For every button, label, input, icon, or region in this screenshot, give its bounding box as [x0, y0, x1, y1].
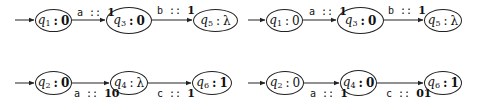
state-name: q2	[38, 76, 51, 90]
separator: :	[285, 15, 289, 27]
separator: :	[360, 15, 364, 27]
state-name: q5	[200, 14, 213, 28]
state-output: 0	[136, 15, 144, 27]
state-name: q2	[270, 76, 283, 90]
state-output: 0	[292, 15, 300, 27]
state-name: q1	[38, 14, 51, 28]
separator: :	[444, 15, 448, 27]
state-output: 0	[61, 77, 69, 89]
edge-label: a :: 1	[310, 88, 348, 99]
state-node: q2:0	[266, 71, 304, 95]
state-node: q5:λ	[424, 9, 462, 32]
state-output: λ	[451, 15, 459, 27]
state-output: 0	[293, 77, 301, 89]
state-name: q5	[428, 14, 441, 28]
separator: :	[130, 77, 134, 89]
separator: :	[212, 77, 216, 89]
state-output: 0	[366, 77, 374, 89]
separator: :	[358, 77, 362, 89]
edge-label: b :: 1	[388, 5, 426, 16]
state-node: q1:0	[35, 9, 72, 32]
edge-label: c :: 1	[157, 88, 195, 99]
state-output: 1	[219, 77, 227, 89]
edge-label: a :: 1	[77, 7, 115, 18]
state-output: 1	[450, 77, 458, 89]
state-name: q6	[196, 76, 209, 90]
state-name: q3	[113, 14, 126, 28]
edge-label: b :: 1	[157, 5, 195, 16]
separator: :	[286, 77, 290, 89]
edge-label: a :: 10	[74, 88, 119, 99]
state-node: q6:1	[192, 71, 232, 95]
state-output: λ	[137, 77, 145, 89]
state-output: 0	[368, 15, 376, 27]
separator: :	[53, 15, 57, 27]
state-output: 0	[61, 15, 69, 27]
separator: :	[129, 15, 133, 27]
state-node: q2:0	[35, 71, 72, 95]
edge-label: a :: 1	[309, 6, 347, 17]
separator: :	[443, 77, 447, 89]
state-node: q5:λ	[193, 9, 238, 32]
edge-label: c :: 01	[386, 88, 431, 99]
separator: :	[216, 15, 220, 27]
separator: :	[53, 77, 57, 89]
state-output: λ	[223, 15, 231, 27]
state-node: q1:0	[266, 9, 303, 32]
state-name: q1	[269, 14, 282, 28]
